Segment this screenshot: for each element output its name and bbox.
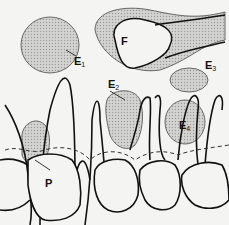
crown-premolar: [182, 162, 229, 208]
label-e1: E1: [74, 56, 85, 68]
crown-canine: [139, 161, 180, 210]
label-p: P: [45, 178, 52, 189]
region-e3: [170, 68, 208, 92]
label-e2: E2: [108, 79, 119, 91]
dental-diagram: [0, 0, 229, 225]
label-f: F: [121, 36, 128, 47]
crown-central-incisor: [28, 154, 81, 220]
crown-lateral-incisor: [94, 159, 138, 212]
region-e1: [21, 17, 79, 73]
label-e4: E4: [179, 120, 190, 132]
label-e3: E3: [205, 60, 216, 72]
